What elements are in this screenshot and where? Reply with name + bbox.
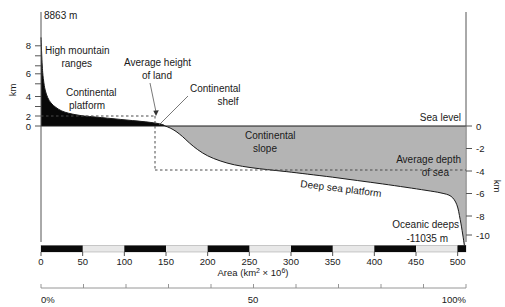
- right-y-axis: 0 -2 -4 -6 -8 -10 km: [466, 12, 503, 242]
- peak-elevation-label: 8863 m: [44, 10, 77, 21]
- continental-shelf-label-line2: shelf: [217, 96, 238, 107]
- scalebar-block: [291, 246, 333, 253]
- x-axis-scalebar: [41, 246, 466, 253]
- continental-platform-label-line1: Continental: [66, 87, 117, 98]
- hypsographic-curve-figure: 8 6 4 2 0 km 0 -2 -4 -6 -8 -10 km: [0, 0, 505, 307]
- right-tick-label-minus4: -4: [476, 166, 484, 177]
- right-axis-title: km: [492, 180, 503, 193]
- right-tick-label-0: 0: [476, 121, 481, 132]
- continental-shelf-leader: [159, 96, 188, 125]
- average-height-of-land-leader: [150, 83, 156, 112]
- left-tick-label-6: 6: [26, 68, 31, 79]
- average-height-of-land-arrowhead: [153, 110, 159, 116]
- right-tick-label-minus8: -8: [476, 211, 484, 222]
- deepest-point-label: -11035 m: [406, 233, 448, 244]
- pct-tick-marks: [41, 284, 466, 288]
- left-tick-label-8: 8: [26, 40, 31, 51]
- hypsographic-chart-svg: 8 6 4 2 0 km 0 -2 -4 -6 -8 -10 km: [0, 0, 505, 307]
- sea-level-label: Sea level: [420, 112, 461, 123]
- oceanic-deeps-label: Oceanic deeps: [392, 219, 459, 230]
- scalebar-block: [124, 246, 166, 253]
- pct-label-0: 0%: [41, 294, 55, 305]
- x-axis-title: Area (km2 × 106): [218, 267, 289, 279]
- high-mountain-ranges-label-line2: ranges: [61, 58, 92, 69]
- left-y-axis: 8 6 4 2 0 km: [7, 12, 41, 242]
- left-tick-label-0: 0: [26, 121, 31, 132]
- left-tick-label-4: 4: [26, 91, 31, 102]
- left-axis-title: km: [7, 84, 18, 97]
- average-depth-of-sea-label-line2: of sea: [422, 167, 450, 178]
- x-axis: 050100150200250300350400450500: [38, 252, 465, 267]
- x-tick-label: 500: [450, 256, 466, 267]
- continental-shelf-label-line1: Continental: [190, 83, 241, 94]
- x-tick-label: 300: [283, 256, 299, 267]
- x-tick-label: 400: [366, 256, 382, 267]
- x-tick-label: 150: [158, 256, 174, 267]
- x-tick-label: 350: [325, 256, 341, 267]
- continental-slope-label-line2: slope: [253, 143, 277, 154]
- high-mountain-ranges-label-line1: High mountain: [45, 45, 109, 56]
- average-height-of-land-label-line2: of land: [142, 70, 172, 81]
- right-tick-label-minus10: -10: [476, 230, 490, 241]
- pct-label-50: 50: [248, 294, 259, 305]
- x-tick-label: 200: [200, 256, 216, 267]
- scalebar-block: [374, 246, 416, 253]
- x-tick-label: 100: [116, 256, 132, 267]
- scalebar-block: [458, 246, 466, 253]
- average-height-of-land-label-line1: Average height: [124, 57, 191, 68]
- percentage-axis: 0% 50 100%: [41, 284, 467, 305]
- continental-platform-label-line2: platform: [69, 100, 105, 111]
- x-tick-label: 0: [38, 256, 43, 267]
- scalebar-block: [41, 246, 83, 253]
- x-tick-label: 50: [77, 256, 88, 267]
- scalebar-block: [208, 246, 250, 253]
- right-tick-label-minus6: -6: [476, 188, 484, 199]
- continental-slope-label-line1: Continental: [245, 130, 296, 141]
- pct-label-100: 100%: [442, 294, 467, 305]
- right-tick-label-minus2: -2: [476, 143, 484, 154]
- x-tick-label: 250: [241, 256, 257, 267]
- x-tick-label: 450: [408, 256, 424, 267]
- average-depth-of-sea-label-line1: Average depth: [396, 154, 461, 165]
